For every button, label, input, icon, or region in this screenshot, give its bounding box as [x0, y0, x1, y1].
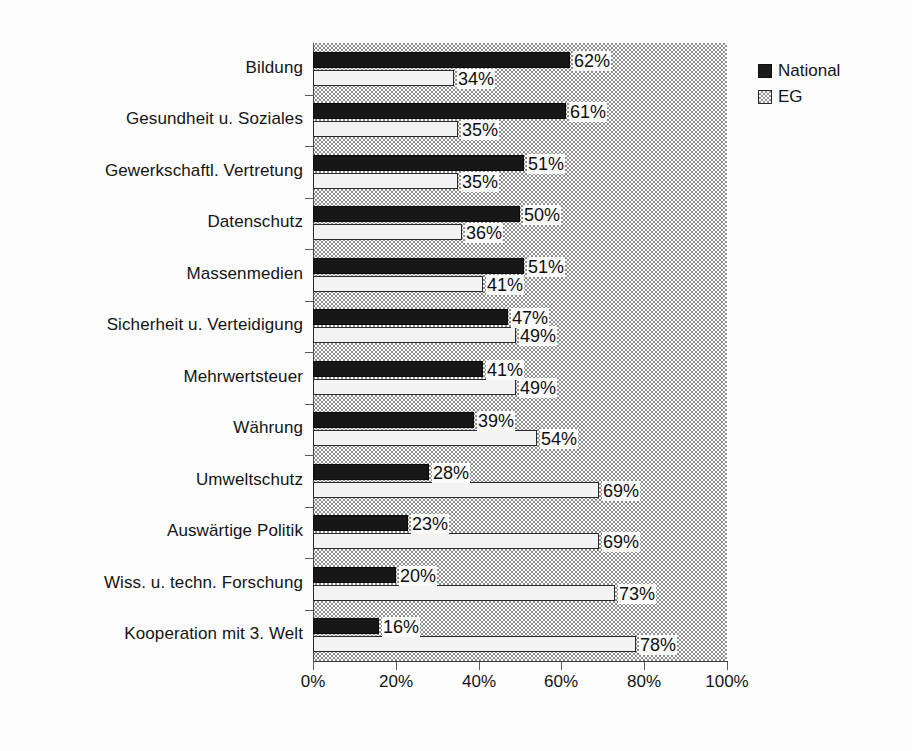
- bar-national: [313, 618, 379, 634]
- x-axis-tick: [479, 662, 480, 670]
- bar-national: [313, 515, 408, 531]
- x-axis-tick-label: 100%: [705, 672, 748, 692]
- value-label-national: 39%: [477, 411, 515, 431]
- legend-label: EG: [778, 87, 803, 107]
- y-axis-tick: [305, 404, 314, 405]
- y-axis-tick: [305, 301, 314, 302]
- x-axis-line: [313, 661, 728, 662]
- category-label: Gesundheit u. Soziales: [126, 109, 303, 129]
- legend-item-eg: EG: [758, 84, 840, 110]
- category-label: Umweltschutz: [196, 470, 303, 490]
- value-label-eg: 73%: [618, 584, 656, 604]
- value-label-national: 20%: [399, 566, 437, 586]
- category-label: Massenmedien: [187, 264, 303, 284]
- bar-eg: [313, 224, 462, 240]
- y-axis-tick: [305, 198, 314, 199]
- bar-eg: [313, 327, 516, 343]
- legend-item-national: National: [758, 58, 840, 84]
- x-axis-tick: [727, 662, 728, 670]
- x-axis-tick-label: 40%: [462, 672, 496, 692]
- legend-label: National: [778, 61, 840, 81]
- x-axis-tick-label: 0%: [301, 672, 326, 692]
- value-label-eg: 35%: [461, 120, 499, 140]
- x-axis-tick-label: 20%: [379, 672, 413, 692]
- y-axis-tick: [305, 95, 314, 96]
- bar-national: [313, 309, 508, 325]
- bar-national: [313, 464, 429, 480]
- value-label-national: 50%: [523, 205, 561, 225]
- x-axis-tick: [644, 662, 645, 670]
- bar-national: [313, 206, 520, 222]
- y-axis-tick: [305, 146, 314, 147]
- category-label: Datenschutz: [207, 212, 303, 232]
- bar-eg: [313, 70, 454, 86]
- bar-eg: [313, 533, 599, 549]
- value-label-eg: 69%: [602, 532, 640, 552]
- value-label-eg: 35%: [461, 172, 499, 192]
- legend-swatch-national-icon: [758, 64, 772, 78]
- y-axis-tick: [305, 610, 314, 611]
- bar-national: [313, 52, 570, 68]
- category-label: Bildung: [246, 58, 303, 78]
- bar-national: [313, 567, 396, 583]
- category-label: Sicherheit u. Verteidigung: [107, 315, 303, 335]
- legend-swatch-eg-icon: [758, 90, 772, 104]
- x-axis-tick-label: 60%: [544, 672, 578, 692]
- category-label: Wiss. u. techn. Forschung: [104, 573, 303, 593]
- bar-eg: [313, 173, 458, 189]
- value-label-eg: 49%: [519, 326, 557, 346]
- category-label: Mehrwertsteuer: [184, 367, 304, 387]
- category-label: Auswärtige Politik: [167, 521, 303, 541]
- bar-national: [313, 258, 524, 274]
- category-label: Kooperation mit 3. Welt: [124, 624, 303, 644]
- value-label-eg: 36%: [465, 223, 503, 243]
- x-axis-tick: [313, 662, 314, 670]
- value-label-national: 51%: [527, 257, 565, 277]
- y-axis-tick: [305, 352, 314, 353]
- value-label-eg: 78%: [639, 635, 677, 655]
- value-label-eg: 49%: [519, 378, 557, 398]
- value-label-eg: 41%: [486, 275, 524, 295]
- bar-national: [313, 103, 566, 119]
- value-label-national: 62%: [573, 51, 611, 71]
- value-label-national: 16%: [382, 617, 420, 637]
- bar-national: [313, 361, 483, 377]
- value-label-eg: 54%: [540, 429, 578, 449]
- value-label-national: 41%: [486, 360, 524, 380]
- value-label-eg: 69%: [602, 481, 640, 501]
- bar-national: [313, 155, 524, 171]
- bar-eg: [313, 482, 599, 498]
- y-axis-tick: [305, 455, 314, 456]
- bar-eg: [313, 585, 615, 601]
- x-axis-tick: [396, 662, 397, 670]
- category-label: Gewerkschaftl. Vertretung: [105, 161, 303, 181]
- value-label-eg: 34%: [457, 69, 495, 89]
- value-label-national: 61%: [569, 102, 607, 122]
- bar-eg: [313, 379, 516, 395]
- x-axis-tick-label: 80%: [627, 672, 661, 692]
- bar-eg: [313, 276, 483, 292]
- bar-national: [313, 412, 474, 428]
- value-label-national: 23%: [411, 514, 449, 534]
- value-label-national: 28%: [432, 463, 470, 483]
- bar-eg: [313, 430, 537, 446]
- x-axis-tick: [561, 662, 562, 670]
- y-axis-tick: [305, 558, 314, 559]
- category-label: Währung: [233, 418, 303, 438]
- bar-eg: [313, 121, 458, 137]
- value-label-national: 47%: [511, 308, 549, 328]
- bar-eg: [313, 636, 636, 652]
- y-axis-tick: [305, 249, 314, 250]
- y-axis-tick: [305, 507, 314, 508]
- value-label-national: 51%: [527, 154, 565, 174]
- chart-legend: NationalEG: [758, 58, 840, 110]
- horizontal-bar-chart: BildungGesundheit u. SozialesGewerkschaf…: [0, 0, 912, 751]
